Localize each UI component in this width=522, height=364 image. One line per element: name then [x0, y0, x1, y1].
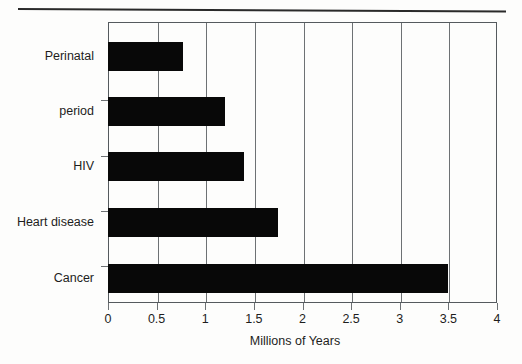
x-tick-label-1-5: 1.5 [245, 312, 262, 326]
bar-perinatal [108, 42, 183, 71]
y-axis-tick [101, 156, 108, 157]
x-tick-label-1: 1 [202, 312, 209, 326]
bar-series [108, 22, 497, 303]
x-axis-tick [400, 303, 401, 310]
bar-heart-disease [108, 208, 278, 237]
x-tick-label-3: 3 [396, 312, 403, 326]
x-tick-label-2: 2 [299, 312, 306, 326]
x-tick-label-4: 4 [494, 312, 501, 326]
y-axis-tick [101, 266, 108, 267]
x-tick-label-3-5: 3.5 [440, 312, 457, 326]
x-axis-tick [448, 303, 449, 310]
y-label-heart-disease: Heart disease [17, 215, 94, 229]
x-tick-label-0: 0 [105, 312, 112, 326]
x-axis-title: Millions of Years [0, 334, 522, 348]
x-axis-tick [205, 303, 206, 310]
x-axis-tick [303, 303, 304, 310]
bar-period [108, 97, 225, 126]
y-axis-tick [101, 100, 108, 101]
y-axis-labels: Perinatal period HIV Heart disease Cance… [0, 22, 101, 303]
x-tick-label-2-5: 2.5 [342, 312, 359, 326]
y-label-cancer: Cancer [54, 271, 94, 285]
x-axis-tick [108, 303, 109, 310]
y-label-hiv: HIV [73, 159, 94, 173]
x-axis-tick [157, 303, 158, 310]
x-axis-tick [254, 303, 255, 310]
chart-page: Perinatal period HIV Heart disease Cance… [0, 0, 522, 364]
y-axis-tick [101, 211, 108, 212]
y-label-perinatal: Perinatal [45, 49, 94, 63]
header-rule [18, 8, 506, 12]
x-tick-label-0-5: 0.5 [148, 312, 165, 326]
bar-cancer [108, 264, 448, 293]
x-axis-title-text: Millions of Years [250, 334, 340, 348]
bar-hiv [108, 152, 244, 181]
x-axis-tick [497, 303, 498, 310]
x-axis-tick [351, 303, 352, 310]
y-label-period: period [59, 104, 94, 118]
